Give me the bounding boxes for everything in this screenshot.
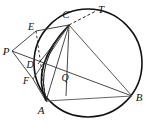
point-label-Q: Q [61,72,69,83]
segment-CA [46,25,69,101]
point-label-C: C [62,8,70,20]
segment-PE [12,31,36,51]
arc-a-to-c [41,25,69,101]
point-label-A: A [37,104,45,116]
point-label-D: D [25,59,34,70]
segment-PB [12,51,132,96]
geometry-figure-canvas: A B C D E F P Q T [0,0,148,125]
segment-CB [69,25,132,96]
geometry-diagram: A B C D E F P Q T [0,0,148,125]
point-label-P: P [2,45,10,57]
segment-AB [46,96,132,101]
point-label-T: T [98,3,105,15]
segment-CF [33,25,69,79]
point-label-E: E [27,21,34,32]
segment-CD [38,25,69,64]
point-label-F: F [22,75,30,86]
segment-CQ [66,25,69,96]
tangent-line-CT [69,11,96,25]
point-label-B: B [136,91,143,103]
